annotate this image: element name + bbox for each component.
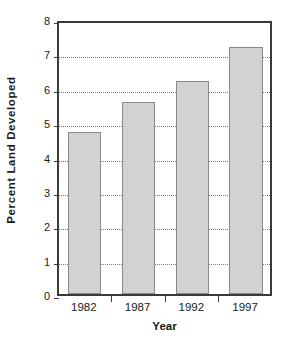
y-tick-label: 6 [24, 84, 50, 96]
bar-chart: Percent Land Developed 012345678 1982198… [0, 0, 284, 344]
bar[interactable] [176, 81, 209, 294]
bar[interactable] [229, 47, 262, 295]
y-axis-title-text: Percent Land Developed [5, 76, 17, 223]
y-tick-mark [54, 298, 59, 299]
bars-group [59, 23, 270, 294]
y-tick-label: 4 [24, 153, 50, 165]
bar[interactable] [122, 102, 155, 295]
y-tick-label: 7 [24, 49, 50, 61]
x-tick-label: 1992 [164, 301, 218, 313]
x-axis-title: Year [57, 320, 272, 332]
y-axis-title: Percent Land Developed [0, 0, 22, 300]
x-tick-mark [111, 296, 112, 302]
y-tick-label: 0 [24, 290, 50, 302]
plot-area [57, 21, 272, 296]
x-tick-mark [165, 296, 166, 302]
x-tick-mark [218, 296, 219, 302]
bar[interactable] [68, 132, 101, 294]
x-tick-label: 1997 [218, 301, 272, 313]
y-tick-label: 2 [24, 221, 50, 233]
x-tick-label: 1982 [57, 301, 111, 313]
y-tick-label: 1 [24, 256, 50, 268]
y-tick-label: 3 [24, 187, 50, 199]
y-tick-label: 8 [24, 15, 50, 27]
y-axis-tick-labels: 012345678 [24, 21, 50, 296]
x-tick-label: 1987 [111, 301, 165, 313]
y-tick-label: 5 [24, 118, 50, 130]
